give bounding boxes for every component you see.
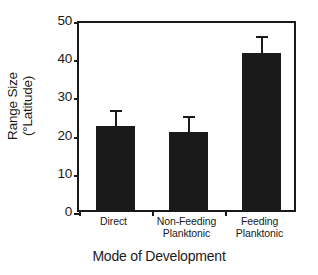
bar-group (96, 23, 135, 210)
bar (96, 126, 135, 210)
y-axis-tick-labels: 01020304050 (38, 0, 72, 275)
y-axis-label: Range Size (°Latitude) (0, 0, 40, 212)
error-bar-cap (256, 36, 268, 38)
y-tick-label: 40 (38, 52, 72, 66)
bar-group (169, 23, 208, 210)
y-axis-tick (74, 137, 79, 139)
y-axis-tick (74, 98, 79, 100)
y-tick-label: 10 (38, 167, 72, 181)
x-tick-label: FeedingPlanktonic (223, 215, 296, 239)
bar (169, 132, 208, 210)
error-bar (188, 118, 190, 132)
plot-area (77, 21, 296, 212)
y-tick-label: 50 (38, 14, 72, 28)
x-axis-label: Mode of Development (0, 248, 318, 264)
y-axis-label-line1: Range Size (5, 72, 20, 140)
error-bar-cap (183, 116, 195, 118)
y-axis-tick (74, 22, 79, 24)
y-axis-tick (74, 60, 79, 62)
bar (242, 53, 281, 210)
x-tick-label-line1: Direct (100, 215, 127, 227)
bar-group (242, 23, 281, 210)
y-tick-label: 30 (38, 91, 72, 105)
bar-chart-figure: Range Size (°Latitude) 01020304050 Direc… (0, 0, 318, 275)
error-bar-cap (110, 110, 122, 112)
x-tick-label: Direct (77, 215, 150, 227)
x-tick-label: Non-FeedingPlanktonic (150, 215, 223, 239)
error-bar (261, 38, 263, 53)
error-bar (115, 112, 117, 126)
y-tick-label: 20 (38, 129, 72, 143)
x-tick-label-line1: Non-Feeding (157, 215, 217, 227)
x-tick-label-line1: Feeding (241, 215, 278, 227)
x-tick-label-line2: Planktonic (150, 227, 223, 239)
x-tick-label-line2: Planktonic (223, 227, 296, 239)
y-tick-label: 0 (38, 205, 72, 219)
y-axis-tick (74, 175, 79, 177)
plot-inner (79, 23, 294, 210)
y-axis-label-line2: (°Latitude) (20, 72, 35, 140)
